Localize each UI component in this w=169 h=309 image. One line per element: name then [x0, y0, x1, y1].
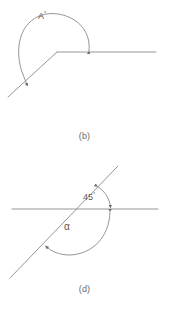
figure-b-caption: (b): [0, 131, 169, 141]
figure-d-angle-alpha-arc: [46, 212, 111, 255]
figure-sheet: A° (b) 45° α (d): [0, 0, 169, 309]
geometry-drawing-canvas: [0, 0, 169, 309]
figure-d-caption: (d): [0, 284, 169, 294]
angle-label-45-text: 45: [83, 192, 93, 202]
figure-b-reflex-angle-arc: [19, 14, 90, 86]
figure-b-group: [8, 14, 156, 97]
angle-label-alpha: α: [64, 221, 70, 232]
angle-label-45: 45°: [83, 192, 95, 202]
figure-d-group: [10, 166, 158, 278]
degree-symbol-icon: °: [44, 10, 46, 16]
figure-b-diagonal-ray: [8, 52, 57, 97]
angle-label-a: A°: [38, 11, 46, 21]
degree-symbol-icon: °: [93, 191, 95, 197]
figure-d-angle-45-arc: [98, 187, 111, 209]
